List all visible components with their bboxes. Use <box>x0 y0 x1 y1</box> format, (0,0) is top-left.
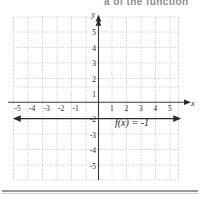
svg-text:-4: -4 <box>29 104 35 113</box>
svg-text:2: 2 <box>92 75 96 84</box>
svg-text:3: 3 <box>139 104 143 113</box>
svg-text:5: 5 <box>92 28 96 37</box>
svg-text:-5: -5 <box>90 162 96 171</box>
svg-text:-3: -3 <box>44 104 50 113</box>
footer-rule <box>2 190 198 192</box>
x-axis-label: x <box>190 99 195 108</box>
svg-text:2: 2 <box>125 104 129 113</box>
screenshot-root: a of the function <box>0 0 200 202</box>
svg-text:-3: -3 <box>90 131 96 140</box>
svg-text:1: 1 <box>92 90 96 99</box>
svg-text:-2: -2 <box>58 104 64 113</box>
grid-horizontal-lines <box>14 17 179 180</box>
svg-text:-4: -4 <box>90 146 96 155</box>
svg-text:-2: -2 <box>90 115 96 124</box>
svg-text:4: 4 <box>154 104 158 113</box>
grid-vertical-lines <box>14 17 179 180</box>
y-tick-labels: 5 4 3 2 1 -2 -3 -4 -5 <box>90 28 97 171</box>
y-axis-label: y <box>91 10 96 19</box>
footer-rule-shadow <box>2 193 198 194</box>
coordinate-plane-figure: y x -5 -4 -3 -2 -1 1 2 3 4 5 5 4 3 2 <box>0 6 200 186</box>
svg-text:-1: -1 <box>73 104 79 113</box>
svg-text:-5: -5 <box>15 104 21 113</box>
x-axis-arrowhead-right <box>184 100 191 105</box>
y-axis-arrowhead <box>96 15 102 22</box>
x-tick-labels: -5 -4 -3 -2 -1 1 2 3 4 5 <box>15 104 173 113</box>
function-equation-label: f(x) = -1 <box>115 117 149 129</box>
svg-text:1: 1 <box>110 104 114 113</box>
svg-text:4: 4 <box>92 44 96 53</box>
svg-text:3: 3 <box>92 59 96 68</box>
svg-text:5: 5 <box>168 104 172 113</box>
